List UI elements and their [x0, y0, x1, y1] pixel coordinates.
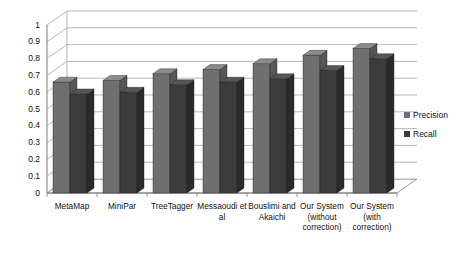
legend-swatch-icon — [404, 112, 410, 118]
bar-recall — [320, 65, 344, 193]
x-axis-category-label: Bouslimi and Akaichi — [245, 201, 299, 222]
legend-item-label: Recall — [413, 130, 437, 139]
x-axis-category-label: Messaoudi et al — [195, 201, 249, 222]
gridline-connector — [47, 28, 67, 42]
legend-item[interactable]: Precision — [404, 110, 466, 120]
y-axis-tick-label: 0.5 — [14, 105, 40, 114]
y-axis-tick-label: 0.1 — [14, 172, 40, 181]
y-axis-tick-label: 0.7 — [14, 71, 40, 80]
x-axis-category-label: Our System (without correction) — [295, 201, 349, 233]
legend-swatch-icon — [404, 131, 410, 137]
x-axis-category-label: MiniPar — [95, 201, 149, 212]
y-axis-tick-label: 0.3 — [14, 138, 40, 147]
x-axis-category-label: TreeTagger — [145, 201, 199, 212]
bar-recall — [220, 77, 244, 193]
gridline-connector — [47, 45, 67, 59]
y-axis-tick-label: 0.8 — [14, 54, 40, 63]
x-axis-category-label: MetaMap — [45, 201, 99, 212]
bar-recall — [270, 74, 294, 193]
y-axis-tick-label: 0 — [14, 189, 40, 198]
bar-recall — [370, 54, 394, 193]
bar-recall — [120, 87, 144, 193]
x-axis-category-label: Our System (with correction) — [345, 201, 399, 233]
gridline-connector — [47, 11, 67, 25]
y-axis-tick-label: 0.4 — [14, 121, 40, 130]
y-axis-tick-label: 0.9 — [14, 37, 40, 46]
bar-recall — [170, 80, 194, 193]
y-axis-tick-label: 1 — [14, 21, 40, 30]
legend-item[interactable]: Recall — [404, 129, 466, 139]
y-axis-tick-label: 0.2 — [14, 155, 40, 164]
bar-chart: 10.90.80.70.60.50.40.30.20.10 MetaMapMin… — [0, 0, 468, 255]
bar-recall — [70, 89, 94, 193]
chart-legend: PrecisionRecall — [404, 110, 466, 148]
legend-item-label: Precision — [413, 111, 448, 120]
gridline-connector — [47, 61, 67, 75]
y-axis-tick-label: 0.6 — [14, 88, 40, 97]
